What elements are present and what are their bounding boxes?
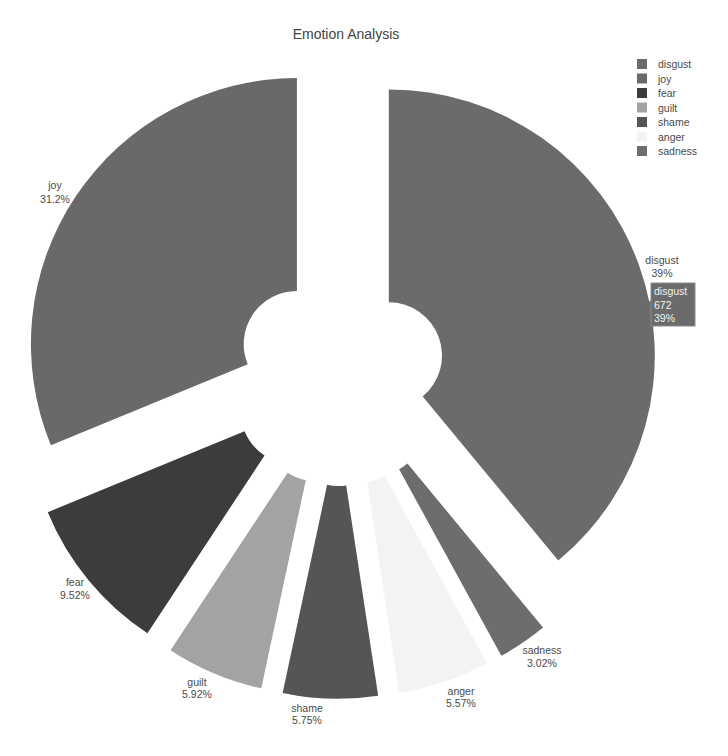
legend-label: anger xyxy=(658,131,685,143)
slice-label-joy: joy 31.2% xyxy=(40,179,70,205)
legend-item-fear[interactable]: fear xyxy=(637,87,677,99)
chart-title: Emotion Analysis xyxy=(293,26,400,42)
slice-label-percent: 5.75% xyxy=(292,714,322,726)
slice-label-guilt: guilt 5.92% xyxy=(182,676,212,700)
legend-swatch xyxy=(637,117,647,127)
slice-label-shame: shame 5.75% xyxy=(291,702,323,726)
pie-slices xyxy=(31,78,655,699)
legend-label: shame xyxy=(658,116,690,128)
hover-value: 672 xyxy=(654,299,672,311)
legend-label: joy xyxy=(657,73,672,85)
legend-label: guilt xyxy=(658,102,677,114)
slice-label-sadness: sadness 3.02% xyxy=(522,644,561,669)
legend-label: fear xyxy=(658,87,677,99)
legend-item-joy[interactable]: joy xyxy=(637,73,672,85)
legend-item-guilt[interactable]: guilt xyxy=(637,102,677,114)
slice-label-fear: fear 9.52% xyxy=(60,576,90,601)
slice-label-name: sadness xyxy=(522,644,561,656)
legend-swatch xyxy=(637,146,647,156)
slice-label-name: joy xyxy=(47,179,62,191)
legend-item-anger[interactable]: anger xyxy=(637,131,685,143)
slice-label-percent: 31.2% xyxy=(40,193,70,205)
pie-chart: Emotion Analysis disgust 39% joy 31.2% f… xyxy=(0,0,728,756)
slice-label-name: disgust xyxy=(645,254,678,266)
slice-label-name: anger xyxy=(448,685,475,697)
slice-label-percent: 39% xyxy=(651,267,672,279)
legend-swatch xyxy=(637,59,647,69)
slice-label-percent: 3.02% xyxy=(527,657,557,669)
hover-percent: 39% xyxy=(654,312,675,324)
legend-item-shame[interactable]: shame xyxy=(637,116,690,128)
legend-swatch xyxy=(637,103,647,113)
hover-tooltip: disgust 672 39% xyxy=(645,283,695,326)
legend-label: disgust xyxy=(658,58,691,70)
legend-item-disgust[interactable]: disgust xyxy=(637,58,691,70)
slice-label-disgust: disgust 39% xyxy=(645,254,678,279)
slice-label-percent: 9.52% xyxy=(60,589,90,601)
legend-item-sadness[interactable]: sadness xyxy=(637,145,697,157)
slice-label-name: guilt xyxy=(187,676,206,688)
slice-label-name: fear xyxy=(66,576,85,588)
slice-label-percent: 5.92% xyxy=(182,688,212,700)
hover-label: disgust xyxy=(654,285,687,297)
legend-swatch xyxy=(637,74,647,84)
slice-label-percent: 5.57% xyxy=(446,697,476,709)
slice-label-anger: anger 5.57% xyxy=(446,685,476,709)
legend-swatch xyxy=(637,132,647,142)
slice-joy[interactable] xyxy=(31,78,297,445)
legend-swatch xyxy=(637,88,647,98)
legend: disgust joy fear guilt shame anger sadne… xyxy=(637,58,697,157)
legend-label: sadness xyxy=(658,145,697,157)
slice-label-name: shame xyxy=(291,702,323,714)
